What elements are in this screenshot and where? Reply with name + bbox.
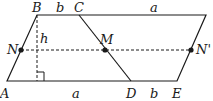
point-m: [102, 47, 107, 52]
point-n: [18, 47, 23, 52]
label-n-point: N: [6, 42, 19, 57]
trapezoid-diagram: A B C D E N M N' b a a b h: [0, 0, 213, 101]
label-de-length: b: [150, 86, 158, 101]
label-m-point: M: [99, 32, 114, 47]
label-ad-length: a: [72, 86, 80, 101]
label-e-point: E: [171, 86, 182, 101]
label-bc-length: b: [56, 0, 64, 15]
label-d-point: D: [125, 86, 137, 101]
label-n-prime-point: N': [195, 42, 211, 57]
label-height: h: [40, 31, 48, 46]
point-n-prime: [188, 47, 193, 52]
right-angle-marker: [37, 72, 44, 81]
label-cf-length: a: [150, 0, 158, 15]
label-b-point: B: [31, 0, 42, 15]
label-c-point: C: [74, 0, 84, 15]
label-a-point: A: [0, 86, 9, 101]
